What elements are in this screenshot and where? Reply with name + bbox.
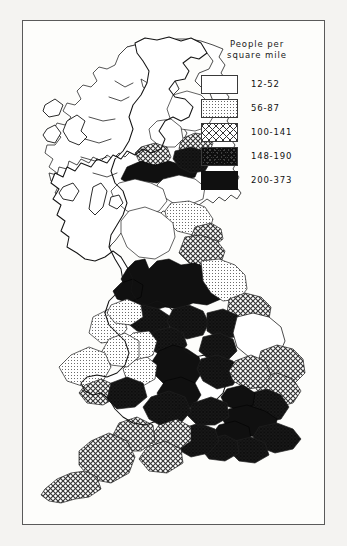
outer-hebrides-north <box>43 99 63 117</box>
legend-label-2: 56-87 <box>251 103 280 113</box>
map-figure: People per square mile 12-52 56-87 100-1… <box>0 0 347 546</box>
legend-row-5: 200-373 <box>201 168 321 192</box>
region-cornwall <box>41 471 101 503</box>
legend-row-4: 148-190 <box>201 144 321 168</box>
legend-label-4: 148-190 <box>251 151 292 161</box>
legend-swatch-blank <box>201 75 238 94</box>
legend-rows: 12-52 56-87 100-141 148-190 200-373 <box>201 72 321 192</box>
legend-title: People per square mile <box>205 39 309 61</box>
legend-swatch-dense-hatch <box>201 147 238 166</box>
legend-swatch-fine-dots <box>201 99 238 118</box>
legend-label-1: 12-52 <box>251 79 280 89</box>
legend-row-1: 12-52 <box>201 72 321 96</box>
map-frame: People per square mile 12-52 56-87 100-1… <box>22 20 325 525</box>
legend-swatch-crosshatch <box>201 123 238 142</box>
legend-label-3: 100-141 <box>251 127 292 137</box>
legend-label-5: 200-373 <box>251 175 292 185</box>
map-legend: People per square mile 12-52 56-87 100-1… <box>201 39 321 192</box>
legend-row-3: 100-141 <box>201 120 321 144</box>
legend-swatch-solid-black <box>201 171 238 190</box>
legend-row-2: 56-87 <box>201 96 321 120</box>
